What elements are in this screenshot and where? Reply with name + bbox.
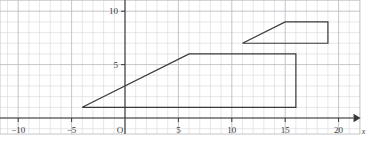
x-axis-tick-label: 5 [176, 125, 181, 135]
y-axis-tick-label: 5 [114, 60, 119, 70]
coordinate-figure: −10−55101520510Oxy [0, 0, 367, 168]
figure-canvas: −10−55101520510Oxy [0, 0, 367, 168]
x-axis-tick-label: −5 [67, 125, 77, 135]
x-axis-tick-label: 20 [334, 125, 344, 135]
x-axis-tick-label: 15 [281, 125, 291, 135]
origin-label: O [117, 125, 124, 135]
figure-background [0, 0, 367, 168]
y-axis-tick-label: 10 [109, 6, 119, 16]
x-axis-name-label: x [361, 127, 366, 136]
x-axis-tick-label: −10 [11, 125, 26, 135]
x-axis-tick-label: 10 [227, 125, 237, 135]
